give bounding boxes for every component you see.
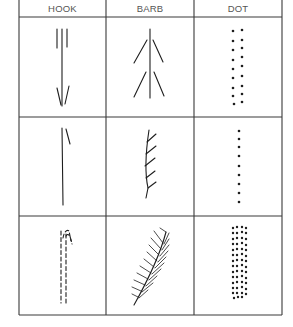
barb-curved-symbol-icon <box>145 130 156 198</box>
table-graphic <box>0 0 293 327</box>
hook-single-symbol-icon <box>62 128 70 205</box>
dot-dense-block-symbol-icon <box>232 226 247 299</box>
hook-arrow-symbol-icon <box>57 29 69 106</box>
barb-feather-symbol-icon <box>132 228 169 305</box>
hook-dashed-symbol-icon <box>61 230 72 303</box>
dot-double-column-symbol-icon <box>232 29 244 106</box>
stroke-symbol-table: HOOK BARB DOT <box>0 0 293 327</box>
barb-chevron-symbol-icon <box>134 29 164 98</box>
dot-single-column-symbol-icon <box>238 130 241 204</box>
